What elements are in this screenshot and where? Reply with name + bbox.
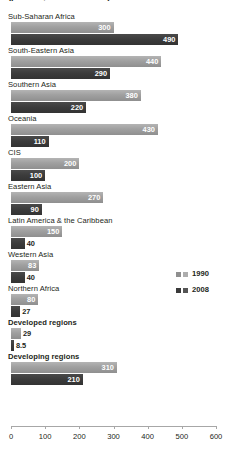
category-label: Western Asia [0, 250, 233, 260]
bar-value-label: 300 [98, 22, 110, 33]
x-axis: 0100200300400500600 [0, 426, 233, 454]
plot-area: Sub-Saharan Africa300490South-Eastern As… [0, 12, 233, 386]
bar-row: 210 [0, 374, 233, 385]
bar-value-label: 290 [95, 68, 107, 79]
bar-row: 310 [0, 362, 233, 373]
bar-row: 100 [0, 170, 233, 181]
bar-1990: 83 [11, 260, 39, 271]
bar-row: 290 [0, 68, 233, 79]
bar-value-label: 110 [34, 136, 46, 147]
bar-value-label: 40 [27, 238, 35, 249]
bar-1990: 29 [11, 328, 21, 339]
bar-1990: 300 [11, 22, 114, 33]
bar-value-label: 8.5 [16, 340, 26, 351]
bar-2008: 40 [11, 272, 25, 283]
bar-value-label: 310 [102, 362, 114, 373]
x-axis-tick [11, 426, 12, 429]
bar-chart: (per 100,000 live births) Sub-Saharan Af… [0, 0, 233, 454]
x-axis-tick-label: 200 [73, 432, 86, 441]
bar-row: 430 [0, 124, 233, 135]
bar-2008: 290 [11, 68, 110, 79]
bar-2008: 8.5 [11, 340, 14, 351]
x-axis-tick [114, 426, 115, 429]
x-axis-tick [45, 426, 46, 429]
bar-2008: 110 [11, 136, 49, 147]
category-label: Oceania [0, 114, 233, 124]
x-axis-tick-label: 0 [9, 432, 13, 441]
bar-row: 8.5 [0, 340, 233, 351]
bar-group: Oceania430110 [0, 114, 233, 147]
x-axis-tick-label: 100 [39, 432, 52, 441]
category-label: Developing regions [0, 352, 233, 362]
bar-value-label: 430 [143, 124, 155, 135]
bar-value-label: 210 [67, 374, 79, 385]
x-axis-tick [79, 426, 80, 429]
bar-value-label: 200 [64, 158, 76, 169]
bar-1990: 310 [11, 362, 117, 373]
bar-row: 380 [0, 90, 233, 101]
legend-swatch-2008-light [183, 288, 188, 293]
category-label: South-Eastern Asia [0, 46, 233, 56]
x-axis-tick [148, 426, 149, 429]
bar-2008: 27 [11, 306, 20, 317]
bar-1990: 440 [11, 56, 161, 67]
bar-value-label: 100 [30, 170, 42, 181]
bar-row: 90 [0, 204, 233, 215]
x-axis-tick-label: 300 [107, 432, 120, 441]
legend-item-2008: 2008 [176, 284, 209, 296]
bar-2008: 490 [11, 34, 178, 45]
bar-row: 110 [0, 136, 233, 147]
bar-group: South-Eastern Asia440290 [0, 46, 233, 79]
legend-swatch-1990-light [183, 272, 188, 277]
bar-row: 270 [0, 192, 233, 203]
bar-value-label: 40 [27, 272, 35, 283]
category-label: Latin America & the Caribbean [0, 216, 233, 226]
bar-group: CIS200100 [0, 148, 233, 181]
bar-row: 27 [0, 306, 233, 317]
bar-2008: 220 [11, 102, 86, 113]
bar-value-label: 27 [22, 306, 30, 317]
bar-value-label: 490 [163, 34, 175, 45]
bar-value-label: 440 [146, 56, 158, 67]
x-axis-tick-label: 500 [175, 432, 188, 441]
bar-1990: 200 [11, 158, 79, 169]
bar-group: Sub-Saharan Africa300490 [0, 12, 233, 45]
bar-value-label: 150 [47, 226, 59, 237]
legend-swatch-1990-dark [176, 272, 181, 277]
bar-row: 150 [0, 226, 233, 237]
bar-row: 200 [0, 158, 233, 169]
bar-row: 220 [0, 102, 233, 113]
legend-swatch-1990 [176, 272, 188, 277]
bar-row: 490 [0, 34, 233, 45]
legend-label-1990: 1990 [192, 268, 209, 280]
legend-item-1990: 1990 [176, 268, 209, 280]
x-axis-tick [182, 426, 183, 429]
chart-legend: 1990 2008 [176, 268, 209, 300]
bar-value-label: 90 [31, 204, 39, 215]
bar-2008: 90 [11, 204, 42, 215]
bar-1990: 430 [11, 124, 158, 135]
x-axis-tick-label: 400 [141, 432, 154, 441]
category-label: Eastern Asia [0, 182, 233, 192]
bar-group: Eastern Asia27090 [0, 182, 233, 215]
category-label: Southern Asia [0, 80, 233, 90]
bar-1990: 80 [11, 294, 38, 305]
bar-value-label: 80 [27, 294, 35, 305]
bar-group: Developing regions310210 [0, 352, 233, 385]
category-label: CIS [0, 148, 233, 158]
bar-row: 29 [0, 328, 233, 339]
x-axis-tick [216, 426, 217, 429]
bar-row: 40 [0, 238, 233, 249]
bar-value-label: 29 [23, 328, 31, 339]
chart-title: (per 100,000 live births) [8, 0, 228, 1]
bar-group: Latin America & the Caribbean15040 [0, 216, 233, 249]
bar-1990: 380 [11, 90, 141, 101]
bar-row: 300 [0, 22, 233, 33]
bar-1990: 150 [11, 226, 62, 237]
x-axis-tick-label: 600 [210, 432, 223, 441]
legend-swatch-2008 [176, 288, 188, 293]
bar-group: Southern Asia380220 [0, 80, 233, 113]
bar-2008: 210 [11, 374, 83, 385]
bar-value-label: 220 [71, 102, 83, 113]
category-label: Sub-Saharan Africa [0, 12, 233, 22]
